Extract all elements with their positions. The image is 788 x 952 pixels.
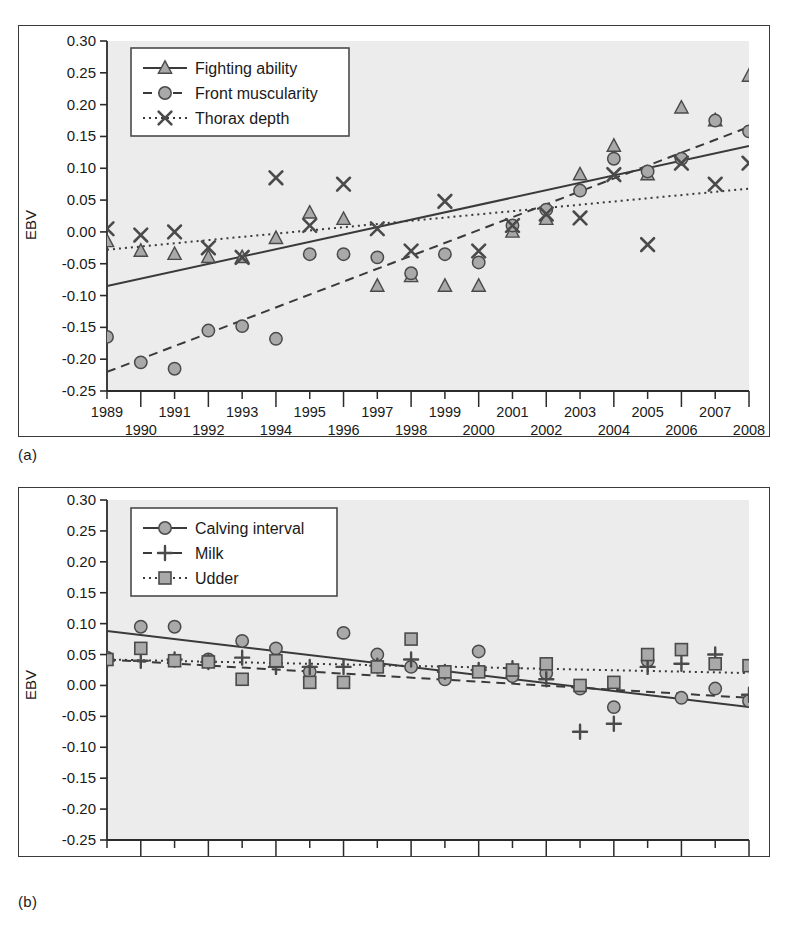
data-point-marker [574,679,586,691]
data-point-marker [574,184,586,196]
data-point-marker [709,658,721,670]
data-point-marker [608,676,620,688]
data-point-marker [709,682,721,694]
y-axis-tick-label: 0.10 [67,159,96,176]
x-axis-tick-label: 1990 [125,422,157,436]
x-axis-tick-label: 2007 [699,853,731,856]
data-point-marker [439,666,451,678]
y-axis-tick-label: -0.15 [62,318,96,335]
x-axis-tick-label: 1997 [361,853,393,856]
data-point-marker [337,248,349,260]
y-axis-tick-label: -0.20 [62,350,96,367]
chart-b-svg: 0.300.250.200.150.100.050.00-0.05-0.10-0… [19,488,769,856]
data-point-marker [202,656,214,668]
data-point-marker [101,331,113,343]
x-axis-tick-label: 1996 [327,422,359,436]
y-axis-tick-label: -0.10 [62,287,96,304]
data-point-marker [709,114,721,126]
y-axis-tick-label: 0.00 [67,676,96,693]
data-point-marker [236,673,248,685]
legend-label: Udder [195,570,239,587]
y-axis-tick-label: 0.20 [67,553,96,570]
legend-label: Milk [195,545,224,562]
chart-b-canvas: 0.300.250.200.150.100.050.00-0.05-0.10-0… [19,488,769,856]
chart-a-y-axis-title: EBV [22,210,39,240]
data-point-marker [168,621,180,633]
data-point-marker [405,267,417,279]
data-point-marker [675,692,687,704]
y-axis-tick-label: 0.00 [67,223,96,240]
data-point-marker [675,644,687,656]
x-axis-tick-label: 2006 [665,422,697,436]
y-axis-tick-label: -0.05 [62,255,96,272]
data-point-marker [135,621,147,633]
x-axis-tick-label: 2004 [598,422,630,436]
x-axis-tick-label: 2000 [463,422,495,436]
data-point-marker [439,248,451,260]
x-axis-tick-label: 2008 [733,422,765,436]
chart-legend: Fighting abilityFront muscularityThorax … [131,48,349,136]
y-axis-tick-label: -0.20 [62,800,96,817]
data-point-marker [168,363,180,375]
data-point-marker [371,661,383,673]
panel-b-caption: (b) [18,893,37,910]
chart-b-y-axis-title: EBV [22,670,39,700]
data-point-marker [236,320,248,332]
x-axis-tick-label: 2001 [496,404,528,420]
y-axis-tick-label: 0.25 [67,64,96,81]
data-point-marker [135,642,147,654]
x-axis-tick-label: 1999 [429,853,461,856]
y-axis-tick-label: -0.15 [62,769,96,786]
data-point-marker [641,165,653,177]
y-axis-tick-label: 0.30 [67,491,96,508]
y-axis-tick-label: -0.25 [62,831,96,848]
panel-a-caption: (a) [18,446,37,463]
data-point-marker [304,676,316,688]
legend-item[interactable]: Calving interval [143,520,304,537]
data-point-marker [642,649,654,661]
data-point-marker [236,635,248,647]
y-axis-tick-label: 0.05 [67,646,96,663]
data-point-marker [159,522,171,534]
x-axis-tick-label: 1994 [260,422,292,436]
y-axis-tick-label: 0.10 [67,615,96,632]
data-point-marker [743,660,755,672]
data-point-marker [270,642,282,654]
data-point-marker [135,356,147,368]
legend-label: Thorax depth [195,110,289,127]
x-axis-tick-label: 2002 [530,422,562,436]
y-axis-tick-label: -0.10 [62,738,96,755]
x-axis-tick-label: 2005 [631,853,663,856]
x-axis-tick-label: 1999 [429,404,461,420]
x-axis-tick-label: 1995 [294,853,326,856]
x-axis-tick-label: 1991 [158,853,190,856]
data-point-marker [473,666,485,678]
x-axis-tick-label: 2003 [564,853,596,856]
y-axis-tick-label: 0.05 [67,191,96,208]
x-axis-tick-label: 1989 [91,853,123,856]
data-point-marker [338,676,350,688]
x-axis-tick-label: 1997 [361,404,393,420]
data-point-marker [506,664,518,676]
x-axis-tick-label: 2001 [496,853,528,856]
data-point-marker [405,633,417,645]
chart-a-canvas: 0.300.250.200.150.100.050.00-0.05-0.10-0… [19,26,769,436]
y-axis-tick-label: 0.25 [67,522,96,539]
data-point-marker [337,627,349,639]
x-axis-tick-label: 2005 [631,404,663,420]
data-point-marker [608,153,620,165]
data-point-marker [202,324,214,336]
x-axis-tick-label: 2003 [564,404,596,420]
figure-panel-a: 0.300.250.200.150.100.050.00-0.05-0.10-0… [18,25,770,437]
y-axis-tick-label: 0.20 [67,96,96,113]
x-axis-tick-label: 2007 [699,404,731,420]
x-axis-tick-label: 1993 [226,853,258,856]
data-point-marker [472,256,484,268]
chart-legend: Calving intervalMilkUdder [131,508,337,596]
legend-label: Front muscularity [195,85,318,102]
y-axis-tick-label: 0.30 [67,32,96,49]
data-point-marker [159,87,171,99]
chart-a-svg: 0.300.250.200.150.100.050.00-0.05-0.10-0… [19,26,769,436]
data-point-marker [169,655,181,667]
legend-label: Calving interval [195,520,304,537]
